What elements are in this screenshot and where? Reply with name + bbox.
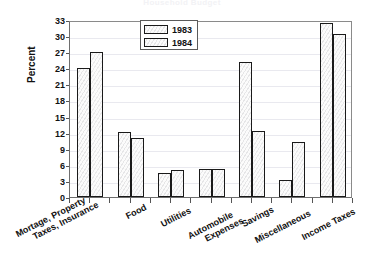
x-axis-label: Food — [124, 202, 148, 221]
gridline — [70, 54, 351, 55]
legend-label-1983: 1983 — [172, 25, 192, 35]
legend-label-1984: 1984 — [172, 38, 192, 48]
y-tick-label: 12 — [55, 129, 65, 138]
legend-swatch-1983 — [144, 25, 168, 34]
y-axis: 03691215182124273033 — [47, 21, 69, 198]
bar-1984-7 — [333, 34, 346, 197]
y-tick-label: 9 — [60, 145, 65, 154]
gridline — [70, 86, 351, 87]
bar-1983-4 — [199, 169, 212, 197]
gridline — [70, 119, 351, 120]
bar-1984-2 — [131, 138, 144, 197]
gridline — [70, 135, 351, 136]
gridline — [70, 38, 351, 39]
legend-item-1984: 1984 — [144, 37, 196, 48]
y-tick-label: 21 — [55, 81, 65, 90]
gridline — [70, 167, 351, 168]
x-axis-label: AutomobileExpenses — [186, 207, 245, 250]
y-tick-label: 15 — [55, 113, 65, 122]
bar-1983-3 — [158, 173, 171, 197]
bar-1983-1 — [77, 68, 90, 197]
chart-title: Household Budget — [82, 0, 282, 7]
bar-1984-5 — [252, 131, 265, 197]
y-tick-label: 27 — [55, 49, 65, 58]
y-tick-label: 18 — [55, 97, 65, 106]
bar-1984-4 — [212, 169, 225, 197]
plot-area — [69, 21, 352, 198]
legend: 1983 1984 — [140, 20, 198, 50]
bar-1983-5 — [239, 62, 252, 197]
gridline — [70, 102, 351, 103]
bar-1983-6 — [279, 180, 292, 197]
y-axis-title: Percent — [26, 46, 37, 83]
x-axis-label: Utilities — [159, 205, 193, 229]
y-tick-label: 24 — [55, 65, 65, 74]
bar-1983-7 — [320, 23, 333, 197]
gridline — [70, 151, 351, 152]
y-tick-label: 6 — [60, 161, 65, 170]
gridline — [70, 70, 351, 71]
bar-1984-6 — [292, 142, 305, 197]
legend-swatch-1984 — [144, 38, 168, 47]
x-axis-label: Savings — [240, 204, 275, 229]
x-axis-labels: Mortage, PropertyTaxes, InsuranceFoodUti… — [0, 198, 365, 269]
x-axis-label: Mortage, PropertyTaxes, Insurance — [14, 191, 100, 248]
y-tick-label: 3 — [60, 177, 65, 186]
bar-1983-2 — [118, 132, 131, 197]
y-tick-label: 30 — [55, 33, 65, 42]
legend-item-1983: 1983 — [144, 24, 196, 35]
bar-1984-1 — [90, 52, 103, 197]
bar-1984-3 — [171, 170, 184, 197]
y-tick-label: 33 — [55, 17, 65, 26]
bar-chart: Household Budget Percent 036912151821242… — [0, 0, 365, 269]
